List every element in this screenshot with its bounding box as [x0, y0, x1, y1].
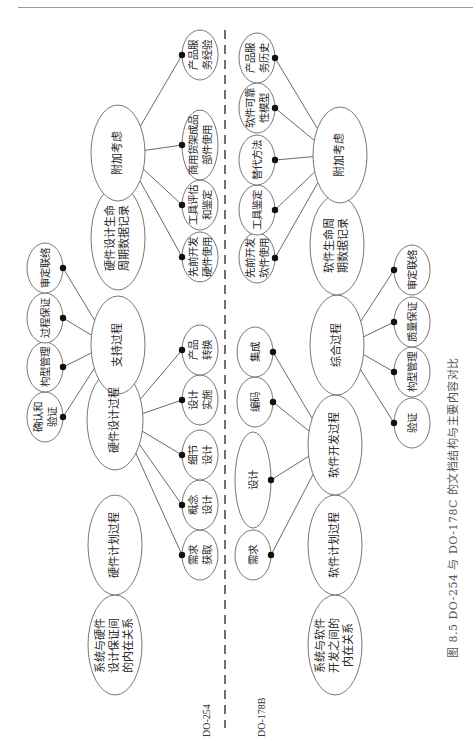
connector-dot-icon [270, 349, 276, 355]
connector-h_design-h_detail [142, 431, 182, 455]
connector-dot-icon [179, 254, 185, 260]
connector-dot-icon [270, 399, 276, 405]
connector-s_add-s_tool [275, 172, 315, 210]
node-label-s_prev: 先前开发 软件使用 [243, 236, 271, 280]
node-label-h_prev: 先前开发 硬件使用 [186, 235, 214, 279]
node-label-s_code: 编码 [248, 380, 262, 424]
connector-dot-icon [179, 52, 185, 58]
rotated-figure-page: 系统与硬件 设计保证间 的内在关系硬件计划过程硬件设计过程支持过程硬件设计生命 … [0, 0, 473, 741]
node-label-s_plan: 软件计划过程 [328, 498, 342, 592]
node-label-s_int: 集成 [248, 330, 262, 374]
node-label-s_dev: 软件开发过程 [328, 398, 342, 492]
connector-h_support-h_cm [63, 353, 91, 367]
node-label-h_vv: 确认和 验证 [31, 395, 59, 439]
diagram-nodes [27, 30, 430, 695]
connector-dot-icon [272, 157, 278, 163]
node-label-h_req: 需求 获取 [186, 533, 214, 577]
connector-s_dev-s_design [271, 456, 309, 480]
node-label-h_detail: 细节 设计 [186, 433, 214, 477]
node-label-s_tool: 工具鉴定 [250, 188, 264, 232]
figure-caption: 图 8.5 DO-254 与 DO-178C 的文档结构与主要内容对比 [444, 278, 460, 658]
connector-dot-icon [272, 55, 278, 61]
connector-s_dev-s_req [271, 474, 313, 555]
connector-s_integ-s_cl [361, 270, 394, 321]
connector-h_add-h_svc [140, 55, 182, 126]
node-label-s_req: 需求 [246, 533, 260, 577]
connector-h_add-h_prev [140, 181, 182, 257]
node-label-h_data: 硬件设计生命 周期数据记录 [104, 189, 132, 287]
connector-dot-icon [179, 347, 185, 353]
node-label-h_cl: 审定联络 [38, 246, 52, 290]
connector-dot-icon [272, 255, 278, 261]
node-label-s_svc: 产品服 务历史 [243, 36, 271, 80]
connector-dot-icon [179, 452, 185, 458]
node-label-h_add: 附加考虑 [111, 108, 125, 198]
connector-h_add-h_tool [143, 169, 182, 205]
node-label-h_concept: 概念 设计 [186, 483, 214, 527]
connector-h_design-h_prod [140, 350, 182, 399]
node-label-s_cl: 审定联络 [405, 248, 419, 292]
connector-dot-icon [179, 502, 185, 508]
node-label-h_svc: 产品服 务经验 [186, 33, 214, 77]
connector-h_support-h_pa [63, 318, 92, 335]
node-label-h_cm: 构型管理 [38, 345, 52, 389]
connector-dot-icon [179, 202, 185, 208]
node-label-h_cots: 商用货架成品 部件使用 [186, 113, 214, 177]
node-label-s_rel: 软件可靠 性模型 [243, 86, 271, 130]
node-label-h_pa: 过程保证 [38, 296, 52, 340]
connector-dot-icon [391, 319, 397, 325]
node-label-s_qa: 质量保证 [405, 300, 419, 344]
connector-dot-icon [391, 369, 397, 375]
connector-dot-icon [179, 552, 185, 558]
node-label-h_plan: 硬件计划过程 [108, 498, 122, 592]
connector-dot-icon [391, 267, 397, 273]
connector-dot-icon [179, 397, 185, 403]
node-label-s_alt: 替代方法 [250, 138, 264, 182]
connector-s_dev-s_int [273, 352, 312, 418]
standard-label-do254: DO-254 [201, 677, 215, 737]
connector-dot-icon [391, 420, 397, 426]
connector-dot-icon [272, 105, 278, 111]
node-label-s_add: 附加考虑 [333, 110, 347, 200]
node-label-s_sys: 系统与软件 开发之间的 内在关系 [314, 598, 356, 692]
connector-dot-icon [60, 265, 66, 271]
node-label-s_cm: 构型管理 [405, 350, 419, 394]
connector-dot-icon [60, 315, 66, 321]
connector-dot-icon [60, 414, 66, 420]
connector-dot-icon [60, 364, 66, 370]
connector-dot-icon [268, 477, 274, 483]
node-label-h_impl: 设计 实施 [186, 378, 214, 422]
structure-comparison-diagram [0, 0, 473, 741]
connector-s_integ-s_qa [364, 322, 394, 337]
node-label-s_data: 软件生命周 期数据记录 [323, 198, 351, 292]
node-label-h_support: 支持过程 [111, 299, 125, 391]
connector-s_add-s_svc [275, 58, 317, 129]
connector-h_support-h_cl [63, 268, 95, 320]
connector-s_integ-s_cm [364, 355, 395, 373]
node-label-h_sys: 系统与硬件 设计保证间 的内在关系 [94, 598, 136, 692]
node-label-h_prod: 产品 转换 [186, 328, 214, 372]
standard-label-do178b: DO-178B [256, 667, 270, 737]
connector-dot-icon [272, 207, 278, 213]
connector-s_add-s_alt [275, 157, 313, 160]
node-label-s_integ: 综合过程 [330, 298, 344, 392]
connector-s_integ-s_verif [361, 370, 395, 424]
connector-h_add-h_cots [145, 145, 182, 150]
connector-s_dev-s_code [273, 402, 309, 431]
connector-h_design-h_req [136, 453, 182, 555]
node-label-h_tool: 工具评估 和鉴定 [186, 183, 214, 227]
connector-dot-icon [179, 142, 185, 148]
node-label-s_design: 设计 [246, 435, 260, 525]
connector-dot-icon [268, 552, 274, 558]
node-label-s_verif: 验证 [405, 401, 419, 445]
connector-h_design-h_impl [143, 400, 182, 414]
